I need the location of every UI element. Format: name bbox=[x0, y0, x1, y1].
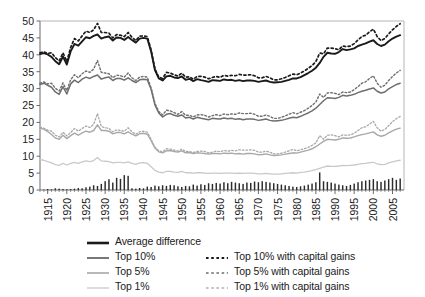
bar-1973 bbox=[269, 183, 270, 190]
bar-1978 bbox=[288, 186, 289, 190]
legend-top-5-cg-label: Top 5% with capital gains bbox=[234, 265, 349, 277]
bar-2005 bbox=[392, 178, 393, 190]
legend-top-10-swatch bbox=[86, 250, 110, 262]
bar-1927 bbox=[93, 185, 94, 190]
bar-1988 bbox=[327, 182, 328, 190]
bar-2001 bbox=[376, 181, 377, 190]
legend-top-10-cg[interactable]: Top 10% with capital gains bbox=[205, 248, 355, 263]
x-tick-label-1965: 1965 bbox=[233, 198, 245, 222]
y-tick-label-20: 20 bbox=[22, 116, 34, 128]
bar-1928 bbox=[97, 186, 98, 190]
legend-top-1-cg[interactable]: Top 1% with capital gains bbox=[205, 278, 355, 293]
bar-1955 bbox=[200, 184, 201, 190]
bar-1948 bbox=[173, 185, 174, 190]
legend-top-1[interactable]: Top 1% bbox=[86, 278, 201, 293]
x-tick-label-1935: 1935 bbox=[118, 198, 130, 222]
legend-column-right: Top 10% with capital gainsTop 5% with ca… bbox=[205, 248, 355, 293]
bar-1966 bbox=[242, 184, 243, 190]
bar-1937 bbox=[131, 188, 132, 190]
bar-1923 bbox=[78, 188, 79, 190]
bar-1915 bbox=[47, 189, 48, 190]
bar-1932 bbox=[112, 183, 113, 190]
x-tick-label-1960: 1960 bbox=[214, 198, 226, 222]
bar-1962 bbox=[227, 183, 228, 190]
bar-1944 bbox=[158, 186, 159, 190]
bar-1971 bbox=[262, 181, 263, 190]
y-tick-label-30: 30 bbox=[22, 82, 34, 94]
x-tick-label-1915: 1915 bbox=[42, 198, 54, 222]
bar-1946 bbox=[166, 186, 167, 190]
bar-1993 bbox=[346, 186, 347, 190]
bar-1992 bbox=[342, 185, 343, 190]
bar-1961 bbox=[223, 182, 224, 190]
legend-top-1-cg-swatch bbox=[205, 280, 229, 292]
bar-1998 bbox=[365, 181, 366, 190]
x-tick-label-1980: 1980 bbox=[291, 198, 303, 222]
bar-1925 bbox=[85, 187, 86, 190]
bar-2007 bbox=[399, 179, 400, 190]
bar-1920 bbox=[66, 189, 67, 190]
bar-1975 bbox=[277, 184, 278, 190]
x-tick-label-1920: 1920 bbox=[61, 198, 73, 222]
bar-1936 bbox=[127, 176, 128, 190]
bar-1926 bbox=[89, 187, 90, 190]
bar-1997 bbox=[361, 181, 362, 190]
bar-1972 bbox=[265, 182, 266, 190]
bar-1953 bbox=[193, 185, 194, 190]
bar-2004 bbox=[388, 179, 389, 190]
x-tick-label-1955: 1955 bbox=[195, 198, 207, 222]
bar-1952 bbox=[189, 186, 190, 190]
bar-2003 bbox=[384, 181, 385, 190]
x-tick-label-2000: 2000 bbox=[367, 198, 379, 222]
bar-1958 bbox=[212, 184, 213, 190]
chart-legend: Average differenceTop 10%Top 5%Top 1% To… bbox=[86, 233, 416, 295]
legend-average-difference-swatch bbox=[86, 235, 110, 247]
bar-1930 bbox=[104, 181, 105, 190]
legend-top-5[interactable]: Top 5% bbox=[86, 263, 201, 278]
bar-1942 bbox=[150, 187, 151, 190]
bar-1964 bbox=[235, 183, 236, 190]
bar-1965 bbox=[239, 183, 240, 190]
bar-1945 bbox=[162, 185, 163, 190]
bar-1963 bbox=[231, 182, 232, 190]
bar-1960 bbox=[219, 184, 220, 190]
bar-1969 bbox=[254, 182, 255, 190]
x-tick-label-1930: 1930 bbox=[99, 198, 111, 222]
y-tick-label-50: 50 bbox=[22, 15, 34, 27]
x-tick-label-1925: 1925 bbox=[80, 198, 92, 222]
x-tick-label-1945: 1945 bbox=[157, 198, 169, 222]
legend-top-5-cg[interactable]: Top 5% with capital gains bbox=[205, 263, 355, 278]
bar-1980 bbox=[296, 187, 297, 190]
bar-1918 bbox=[58, 189, 59, 190]
bar-1976 bbox=[281, 185, 282, 190]
bar-1984 bbox=[311, 184, 312, 190]
y-tick-label-45: 45 bbox=[22, 32, 34, 44]
bar-1999 bbox=[369, 180, 370, 190]
bar-1954 bbox=[196, 186, 197, 190]
bar-1941 bbox=[147, 187, 148, 190]
legend-top-10[interactable]: Top 10% bbox=[86, 248, 201, 263]
bar-1967 bbox=[246, 183, 247, 190]
y-tick-label-25: 25 bbox=[22, 99, 34, 111]
bar-1959 bbox=[216, 183, 217, 190]
bar-1979 bbox=[292, 187, 293, 190]
x-tick-label-1975: 1975 bbox=[272, 198, 284, 222]
bar-1934 bbox=[120, 179, 121, 190]
legend-top-10-label: Top 10% bbox=[115, 250, 155, 262]
bar-1931 bbox=[108, 179, 109, 190]
bar-1919 bbox=[62, 189, 63, 190]
bar-1956 bbox=[204, 185, 205, 190]
chart-figure: 0510152025303540455019151920192519301935… bbox=[0, 0, 425, 297]
x-tick-label-1970: 1970 bbox=[252, 198, 264, 222]
bar-1981 bbox=[300, 186, 301, 190]
legend-average-difference-label: Average difference bbox=[115, 235, 201, 247]
bar-1990 bbox=[334, 184, 335, 190]
bar-1947 bbox=[170, 185, 171, 190]
y-tick-label-15: 15 bbox=[22, 133, 34, 145]
bar-1970 bbox=[258, 182, 259, 190]
legend-average-difference[interactable]: Average difference bbox=[86, 233, 201, 248]
bar-1940 bbox=[143, 188, 144, 190]
bar-1986 bbox=[319, 172, 320, 190]
x-tick-label-1940: 1940 bbox=[137, 198, 149, 222]
y-tick-label-40: 40 bbox=[22, 49, 34, 61]
